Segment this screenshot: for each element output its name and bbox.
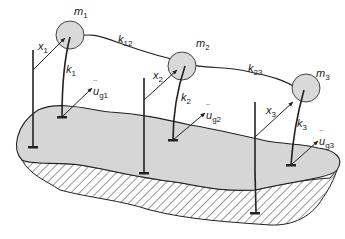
label-x2: x2 [153, 70, 163, 84]
label-k2: k2 [181, 92, 191, 106]
label-k3: k3 [297, 118, 307, 132]
spring-k23 [185, 62, 298, 89]
label-x1: x1 [38, 41, 48, 55]
label-k12: k12 [118, 34, 132, 48]
label-k23: k23 [248, 63, 262, 77]
label-m3: m3 [316, 68, 330, 82]
diagram-canvas [0, 0, 345, 239]
label-ug3: ug3 [319, 136, 334, 150]
support-base-post-1 [28, 146, 38, 149]
label-m2: m2 [196, 38, 210, 52]
reference-post-3-lower [255, 172, 256, 212]
mass-m1 [56, 21, 84, 49]
label-ug2: ug2 [206, 110, 221, 124]
label-x3: x3 [266, 105, 276, 119]
label-ug1: ug1 [93, 86, 108, 100]
support-base-post-3 [250, 212, 260, 215]
label-k1: k1 [66, 64, 76, 78]
label-m1: m1 [74, 6, 88, 20]
support-base-post-2 [139, 172, 149, 175]
